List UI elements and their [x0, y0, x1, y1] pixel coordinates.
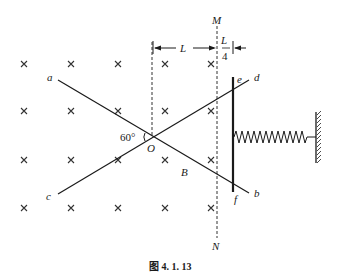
- label-e: e: [237, 73, 242, 85]
- magnetic-field-crosses: [21, 61, 214, 211]
- label-L4-numerator: L: [220, 34, 227, 46]
- label-f: f: [234, 193, 239, 205]
- label-L: L: [179, 42, 186, 54]
- label-angle: 60°: [120, 131, 135, 143]
- angle-arc: [144, 133, 145, 141]
- figure-caption: 图 4. 1. 13: [149, 261, 192, 272]
- label-M: M: [211, 14, 222, 26]
- label-L4-denominator: 4: [222, 50, 228, 62]
- label-c: c: [46, 190, 51, 202]
- label-b: b: [254, 187, 260, 199]
- label-O: O: [147, 142, 155, 154]
- cross-icon: [21, 61, 214, 211]
- dimension-L: [153, 41, 246, 54]
- physics-diagram: M N L L 4 a b c d 60° O B e f 图 4. 1. 13: [0, 0, 342, 274]
- label-d: d: [254, 71, 260, 83]
- label-B: B: [181, 166, 188, 178]
- label-a: a: [47, 71, 53, 83]
- wall-hatch: [317, 111, 321, 163]
- label-N: N: [211, 240, 220, 252]
- spring: [234, 131, 316, 143]
